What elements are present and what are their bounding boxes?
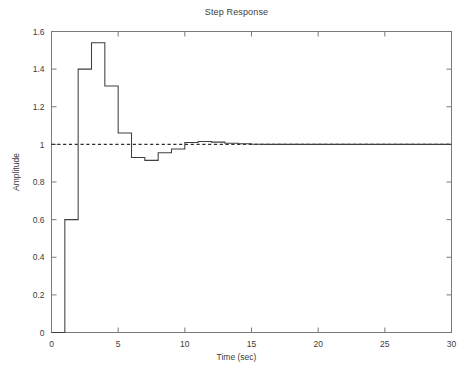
svg-text:5: 5 (116, 339, 121, 349)
svg-text:25: 25 (380, 339, 390, 349)
svg-text:0.6: 0.6 (33, 215, 45, 225)
svg-text:1.6: 1.6 (33, 27, 45, 37)
y-axis-ticks (52, 32, 452, 333)
step-response-chart: 00.20.40.60.811.21.41.6 051015202530 (0, 0, 473, 378)
svg-text:20: 20 (313, 339, 323, 349)
svg-text:0.8: 0.8 (33, 177, 45, 187)
svg-text:1.2: 1.2 (33, 102, 45, 112)
x-axis-ticks (52, 32, 452, 333)
svg-text:0.2: 0.2 (33, 290, 45, 300)
svg-text:0.4: 0.4 (33, 252, 45, 262)
y-axis-label: Amplitude (11, 132, 21, 212)
svg-text:30: 30 (447, 339, 457, 349)
svg-text:15: 15 (247, 339, 257, 349)
svg-text:10: 10 (180, 339, 190, 349)
svg-text:1.4: 1.4 (33, 64, 45, 74)
svg-text:1: 1 (40, 140, 45, 150)
step-response-curve (52, 43, 452, 333)
y-axis-tick-labels: 00.20.40.60.811.21.41.6 (33, 27, 45, 338)
x-axis-tick-labels: 051015202530 (49, 339, 456, 349)
plot-frame (52, 32, 452, 333)
figure-canvas: Step Response 00.20.40.60.811.21.41.6 05… (0, 0, 473, 378)
svg-text:0: 0 (49, 339, 54, 349)
svg-text:0: 0 (40, 328, 45, 338)
x-axis-label: Time (sec) (0, 352, 473, 362)
